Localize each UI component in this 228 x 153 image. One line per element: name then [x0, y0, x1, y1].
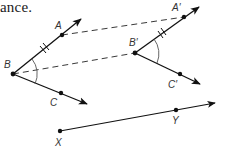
angle-arc-B [32, 59, 37, 84]
point-X [58, 129, 62, 133]
point-B [11, 72, 16, 77]
translation-diagram: A B C A′ B′ C′ X Y [0, 0, 228, 153]
point-B-prime [133, 51, 138, 56]
ray-BA [13, 19, 81, 74]
label-C-prime: C′ [168, 79, 178, 90]
point-C-prime [178, 72, 182, 76]
point-C [59, 91, 63, 95]
point-A-prime [182, 15, 186, 19]
label-X: X [54, 137, 62, 148]
dashed-segment-BB-prime [13, 53, 135, 74]
ray-XY [60, 103, 215, 131]
point-A [60, 33, 64, 37]
label-A-prime: A′ [171, 2, 182, 13]
label-Y: Y [172, 115, 180, 126]
angle-arc-B-prime [154, 39, 159, 63]
point-Y [174, 108, 178, 112]
ray-BpAp [135, 7, 199, 53]
label-B: B [4, 59, 11, 70]
label-A: A [54, 20, 62, 31]
label-C: C [50, 97, 58, 108]
label-B-prime: B′ [129, 37, 139, 48]
